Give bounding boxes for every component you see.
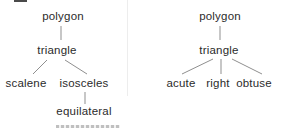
node-triangle-by-sides-isosceles: isosceles (59, 78, 108, 90)
edge-triangle-acute (182, 59, 213, 74)
edge-triangle-obtuse (232, 59, 262, 74)
edge-triangle-scalene (33, 60, 47, 74)
node-triangle-by-angles-obtuse: obtuse (236, 78, 272, 90)
node-triangle-by-angles-acute: acute (166, 78, 195, 90)
node-triangle-by-sides-equilateral: equilateral (56, 106, 111, 118)
cropped-content-fragment-bottom (56, 125, 120, 128)
edge-triangle-isosceles (65, 60, 87, 74)
node-triangle-by-sides-triangle: triangle (37, 45, 76, 57)
node-triangle-by-sides-polygon: polygon (42, 11, 84, 23)
node-triangle-by-angles-polygon: polygon (199, 11, 241, 23)
node-triangle-by-sides-scalene: scalene (5, 78, 46, 90)
node-triangle-by-angles-triangle: triangle (199, 45, 238, 57)
diagram-canvas: polygontrianglescaleneisoscelesequilater… (0, 0, 281, 129)
node-triangle-by-angles-right: right (206, 78, 229, 90)
